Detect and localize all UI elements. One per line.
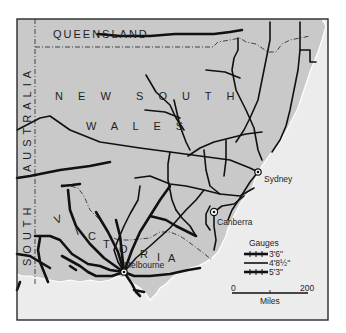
label-victoria-c: C [88,230,102,242]
label-nsw-new: N E W [55,90,117,102]
scale-unit-label: Miles [260,296,280,306]
label-victoria-a: A [168,252,181,264]
label-victoria-r: R [140,248,154,260]
label-sydney: Sydney [264,174,292,184]
label-south-australia-2: SOUTH [21,203,33,267]
legend-symbols [244,251,268,275]
label-queensland: QUEENSLAND [53,28,149,40]
label-melbourne: Melbourne [124,260,164,270]
legend-item-5ft3: 5'3" [269,267,283,277]
label-nsw-south: S O U T H [136,90,240,102]
scale-end-label: 200 [300,283,314,293]
label-nsw-wales: W A L E S [86,120,189,132]
label-south-australia-1: AUSTRALIA [21,66,33,172]
map-graphic [0,0,346,333]
label-canberra: Canberra [217,217,252,227]
legend-title: Gauges [249,238,279,248]
canberra-marker-icon [210,208,217,215]
label-victoria-o: O [119,243,134,255]
railway-gauge-map: QUEENSLAND N E W S O U T H W A L E S AUS… [0,0,346,333]
scale-start-label: 0 [231,283,236,293]
label-victoria-t: T [103,238,116,250]
sydney-marker-icon [255,169,261,175]
